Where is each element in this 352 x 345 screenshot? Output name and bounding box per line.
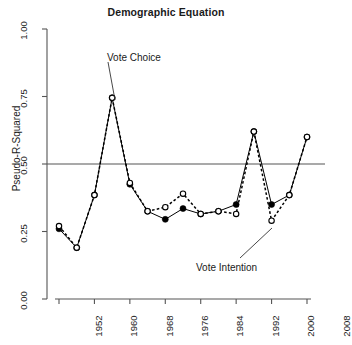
x-tick-label-2008: 2008 bbox=[341, 316, 352, 345]
data-point bbox=[269, 202, 275, 208]
leader-line-vote-choice bbox=[108, 62, 115, 100]
data-point bbox=[56, 223, 61, 228]
data-point bbox=[162, 216, 168, 222]
data-point bbox=[127, 180, 132, 185]
axes-group bbox=[42, 29, 311, 304]
data-point bbox=[180, 191, 185, 196]
series-markers bbox=[56, 95, 310, 251]
y-axis-ticks bbox=[42, 29, 47, 299]
data-point bbox=[287, 192, 292, 197]
data-point bbox=[233, 211, 238, 216]
data-point bbox=[74, 245, 79, 250]
data-point bbox=[304, 134, 309, 139]
data-point bbox=[145, 209, 150, 214]
data-point bbox=[180, 206, 186, 212]
x-axis-ticks bbox=[59, 299, 307, 304]
data-point bbox=[269, 218, 274, 223]
series-lines bbox=[59, 98, 307, 248]
data-point bbox=[233, 202, 239, 208]
data-point bbox=[216, 209, 221, 214]
series-line-vote-choice bbox=[59, 98, 307, 248]
series-line-vote-intention bbox=[59, 98, 307, 248]
data-point bbox=[251, 129, 256, 134]
data-point bbox=[163, 205, 168, 210]
data-point bbox=[198, 211, 203, 216]
leader-line-vote-intention bbox=[240, 228, 272, 258]
data-point bbox=[92, 192, 97, 197]
